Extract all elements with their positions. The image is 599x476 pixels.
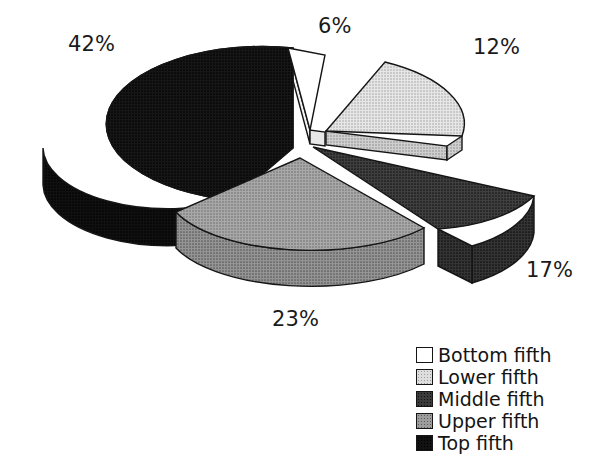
data-label-lower-fifth: 12% xyxy=(473,35,520,59)
legend-item-middle-fifth[interactable]: Middle fifth xyxy=(416,388,592,410)
data-label-top-fifth: 42% xyxy=(68,32,115,56)
pie-chart: 6% 12% 17% 23% 42% Bottom fifth Lower fi… xyxy=(0,0,599,476)
legend-swatch-icon-lower-fifth xyxy=(416,369,433,385)
legend-label-bottom-fifth: Bottom fifth xyxy=(438,345,552,365)
data-label-upper-fifth: 23% xyxy=(272,307,319,331)
legend-label-upper-fifth: Upper fifth xyxy=(438,411,539,431)
legend-swatch-icon-bottom-fifth xyxy=(416,347,433,363)
data-label-middle-fifth: 17% xyxy=(526,258,573,282)
chart-legend: Bottom fifth Lower fifth Middle fifth Up… xyxy=(416,344,592,454)
legend-label-middle-fifth: Middle fifth xyxy=(438,389,545,409)
legend-item-bottom-fifth[interactable]: Bottom fifth xyxy=(416,344,592,366)
legend-swatch-icon-top-fifth xyxy=(416,435,433,451)
legend-item-top-fifth[interactable]: Top fifth xyxy=(416,432,592,454)
legend-swatch-icon-upper-fifth xyxy=(416,413,433,429)
slice-lower-fifth-top xyxy=(326,62,464,136)
legend-item-lower-fifth[interactable]: Lower fifth xyxy=(416,366,592,388)
legend-item-upper-fifth[interactable]: Upper fifth xyxy=(416,410,592,432)
legend-swatch-icon-middle-fifth xyxy=(416,391,433,407)
data-label-bottom-fifth: 6% xyxy=(318,14,352,38)
legend-label-top-fifth: Top fifth xyxy=(438,433,514,453)
legend-label-lower-fifth: Lower fifth xyxy=(438,367,539,387)
